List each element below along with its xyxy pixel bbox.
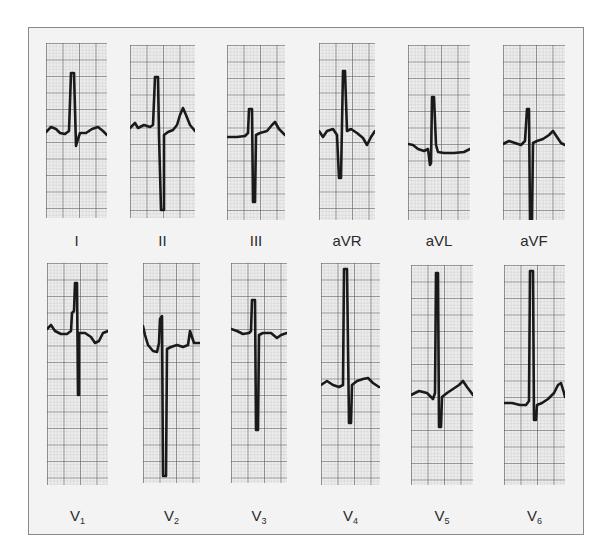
- lead-label-text: V: [527, 507, 537, 524]
- lead-label-v1: V1: [38, 507, 118, 530]
- lead-label-text: I: [74, 232, 78, 249]
- ecg-strip-avr: [319, 43, 375, 220]
- lead-label-text: V: [164, 507, 174, 524]
- lead-label-v3: V3: [219, 507, 299, 530]
- lead-label-avr: aVR: [307, 232, 387, 250]
- lead-label-text: V: [434, 507, 444, 524]
- ecg-strip-iii: [227, 45, 285, 220]
- lead-label-i: I: [37, 232, 117, 250]
- lead-label-ii: II: [123, 232, 203, 250]
- lead-label-text: V: [343, 507, 353, 524]
- lead-label-text: II: [158, 232, 166, 249]
- lead-label-text: aVF: [520, 232, 548, 249]
- lead-label-v4: V4: [311, 507, 391, 530]
- ecg-strip-v3: [231, 263, 287, 483]
- ecg-strip-i: [46, 43, 107, 218]
- ecg-figure-panel: [28, 27, 584, 535]
- lead-label-text: V: [251, 507, 261, 524]
- ecg-strip-avl: [408, 45, 470, 220]
- lead-label-avf: aVF: [494, 232, 574, 250]
- lead-label-v2: V2: [132, 507, 212, 530]
- ecg-strip-v4: [321, 263, 380, 485]
- lead-label-iii: III: [216, 232, 296, 250]
- lead-label-subscript: 2: [174, 516, 179, 526]
- lead-label-avl: aVL: [399, 232, 479, 250]
- ecg-strip-v2: [143, 263, 200, 483]
- lead-label-subscript: 1: [80, 516, 85, 526]
- ecg-strip-v6: [504, 265, 565, 485]
- ecg-strip-avf: [503, 45, 565, 220]
- ecg-strip-ii: [130, 45, 195, 218]
- lead-label-v5: V5: [402, 507, 482, 530]
- lead-label-text: aVR: [332, 232, 361, 249]
- ecg-strip-v5: [411, 265, 473, 485]
- ecg-strip-v1: [47, 263, 108, 485]
- lead-label-text: V: [70, 507, 80, 524]
- lead-label-subscript: 4: [353, 516, 358, 526]
- lead-label-subscript: 6: [537, 516, 542, 526]
- lead-label-text: III: [250, 232, 263, 249]
- lead-label-subscript: 5: [445, 516, 450, 526]
- lead-label-text: aVL: [426, 232, 453, 249]
- lead-label-v6: V6: [495, 507, 575, 530]
- lead-label-subscript: 3: [262, 516, 267, 526]
